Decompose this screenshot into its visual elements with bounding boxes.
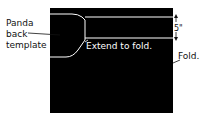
- arrow-down-icon: [174, 37, 178, 41]
- template-label-line3: template: [6, 40, 47, 50]
- fold-label: Fold.: [178, 51, 199, 61]
- template-label-line1: Panda: [6, 18, 33, 28]
- dimension-label: 5": [174, 24, 183, 33]
- extend-label: Extend to fold.: [86, 41, 152, 51]
- fabric-panel: [50, 8, 173, 113]
- panda-back-diagram: 5" Panda back template Extend to fold. F…: [0, 0, 210, 117]
- arrow-up-icon: [174, 14, 178, 18]
- template-label-line2: back: [6, 29, 28, 39]
